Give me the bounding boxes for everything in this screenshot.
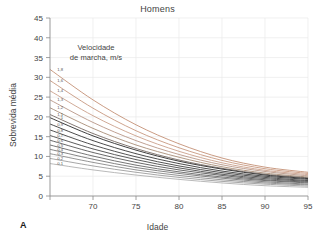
y-tick-label: 40 xyxy=(34,34,43,43)
y-tick-label: 20 xyxy=(34,113,43,122)
curve-label-1-6: 1,6 xyxy=(57,78,63,83)
y-tick-label: 25 xyxy=(34,93,43,102)
y-tick-label: 5 xyxy=(39,172,44,181)
x-axis-label: Idade xyxy=(0,222,315,232)
y-tick-label: 0 xyxy=(39,192,44,201)
legend-title-line1: Velocidade xyxy=(77,43,114,52)
curve-label-0-8: 0,8 xyxy=(57,128,63,133)
x-tick-label: 95 xyxy=(304,202,313,211)
legend-title-line2: de marcha, m/s xyxy=(70,53,123,62)
x-tick-label: 90 xyxy=(261,202,270,211)
panel-letter: A xyxy=(20,220,27,230)
curve-label-1-2: 1,2 xyxy=(57,105,63,110)
y-tick-label: 15 xyxy=(34,133,43,142)
x-tick-label: 75 xyxy=(132,202,141,211)
x-tick-label: 80 xyxy=(175,202,184,211)
curve-label-1-4: 1,4 xyxy=(57,88,63,93)
y-tick-label: 10 xyxy=(34,152,43,161)
line-chart-plot: 707580859095051015202530354045Velocidade… xyxy=(0,0,315,240)
curve-label-1: 1 xyxy=(61,115,64,120)
y-tick-label: 35 xyxy=(34,54,43,63)
figure-panel-a: Homens 707580859095051015202530354045Vel… xyxy=(0,0,315,240)
chart-title: Homens xyxy=(0,4,315,14)
curve-label-1-3: 1,3 xyxy=(57,97,63,102)
curve-label-0-9: 0,9 xyxy=(57,122,63,127)
y-tick-label: 30 xyxy=(34,73,43,82)
y-axis-label: Sobrevida média xyxy=(8,55,18,175)
x-tick-label: 85 xyxy=(218,202,227,211)
x-tick-label: 70 xyxy=(89,202,98,211)
y-tick-label: 45 xyxy=(34,14,43,23)
curve-label-0-1: 0,1 xyxy=(57,161,63,166)
curve-label-1-8: 1,8 xyxy=(57,67,63,72)
